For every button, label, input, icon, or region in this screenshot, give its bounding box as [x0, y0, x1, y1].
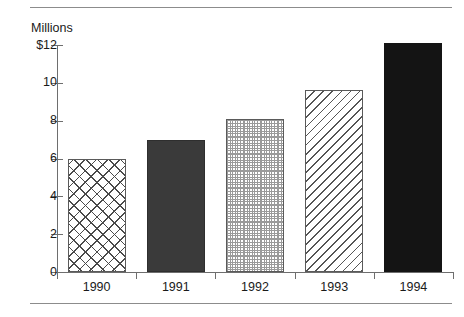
x-axis-tick — [374, 272, 375, 279]
x-axis-label-1991: 1991 — [136, 281, 215, 294]
x-axis-label-1992: 1992 — [215, 281, 294, 294]
bar-1992[interactable] — [226, 119, 284, 272]
x-axis-label-1990: 1990 — [57, 281, 136, 294]
y-axis-tick-label: 0 — [13, 266, 57, 279]
x-axis-label-1993: 1993 — [295, 281, 374, 294]
bar-1993[interactable] — [305, 90, 363, 272]
bar-1990[interactable] — [68, 159, 126, 273]
plot-area: Millions 0246810$12 19901991199219931994 — [0, 0, 464, 317]
x-axis-tick — [453, 272, 454, 279]
x-axis-line — [57, 272, 453, 273]
y-axis-tick-label: 8 — [13, 114, 57, 127]
y-axis-tick-label: 6 — [13, 152, 57, 165]
x-axis-label-1994: 1994 — [374, 281, 453, 294]
y-axis-title: Millions — [31, 22, 73, 35]
y-axis-tick-label: 4 — [13, 190, 57, 203]
x-axis-tick — [215, 272, 216, 279]
y-axis-tick-label: 10 — [13, 76, 57, 89]
bottom-divider-rule — [30, 303, 452, 304]
chart-figure: Millions 0246810$12 19901991199219931994 — [0, 0, 464, 317]
x-axis-tick — [136, 272, 137, 279]
y-axis-tick-label: $12 — [13, 39, 57, 52]
x-axis-tick — [295, 272, 296, 279]
y-axis-tick-label: 2 — [13, 228, 57, 241]
x-axis-tick — [57, 272, 58, 279]
bar-1994[interactable] — [384, 43, 442, 272]
bar-1991[interactable] — [147, 140, 205, 272]
